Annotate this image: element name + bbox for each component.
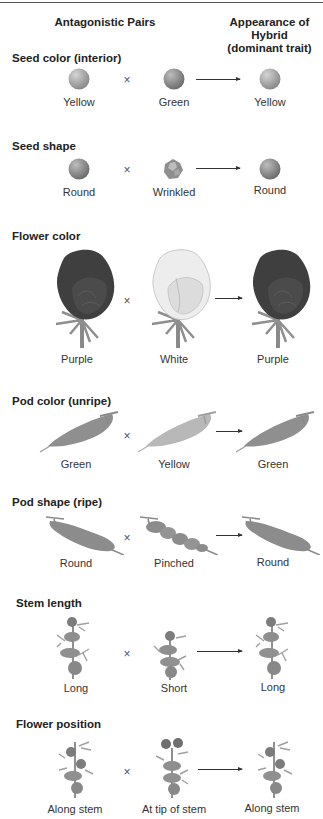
flower-purple-icon	[52, 248, 118, 348]
cross-symbol: ×	[121, 294, 133, 308]
header-hybrid-line2: (dominant trait)	[212, 42, 323, 55]
seed-round-icon	[68, 158, 90, 180]
plant-tip-of-stem-icon	[154, 738, 194, 800]
seed-yellow-icon	[68, 68, 90, 90]
label-hybrid: Round	[228, 556, 318, 568]
label-parent1: Purple	[32, 353, 122, 365]
label-parent2: Wrinkled	[129, 186, 219, 198]
pod-yellow-icon	[136, 410, 218, 454]
pod-round-icon	[44, 515, 124, 555]
cross-symbol: ×	[121, 73, 133, 87]
section-title-stem-length: Stem length	[16, 597, 82, 609]
pod-green-icon	[38, 410, 120, 454]
label-parent2: Short	[129, 682, 219, 694]
section-title-flower-position: Flower position	[16, 718, 101, 730]
label-parent2: Yellow	[129, 458, 219, 470]
arrow-icon	[216, 535, 242, 536]
label-parent2: At tip of stem	[129, 803, 219, 815]
label-parent1: Round	[34, 186, 124, 198]
pod-round-hybrid-icon	[240, 515, 320, 555]
label-parent1: Along stem	[30, 803, 120, 815]
seed-green-icon	[163, 68, 185, 90]
label-parent1: Long	[31, 682, 121, 694]
arrow-icon	[196, 168, 240, 169]
section-title-pod-color: Pod color (unripe)	[12, 395, 111, 407]
plant-long-hybrid-icon	[254, 615, 294, 681]
label-parent2: White	[129, 353, 219, 365]
section-title-seed-shape: Seed shape	[12, 140, 76, 152]
top-rule	[0, 2, 323, 3]
header-hybrid: Appearance of Hybrid (dominant trait)	[212, 16, 323, 55]
seed-yellow-hybrid-icon	[259, 68, 281, 90]
section-title-pod-shape: Pod shape (ripe)	[12, 496, 102, 508]
arrow-icon	[196, 79, 240, 80]
label-parent2: Pinched	[129, 557, 219, 569]
header-antagonistic-pairs: Antagonistic Pairs	[40, 16, 170, 29]
flower-white-icon	[148, 248, 214, 348]
label-hybrid: Round	[225, 184, 315, 196]
label-parent1: Round	[31, 557, 121, 569]
cross-symbol: ×	[121, 765, 133, 779]
label-parent1: Yellow	[34, 96, 124, 108]
section-title-seed-color: Seed color (interior)	[12, 52, 121, 64]
cross-symbol: ×	[121, 647, 133, 661]
arrow-icon	[198, 769, 242, 770]
plant-along-stem-hybrid-icon	[256, 740, 296, 800]
cross-symbol: ×	[121, 163, 133, 177]
label-parent1: Green	[31, 458, 121, 470]
cross-symbol: ×	[121, 429, 133, 443]
plant-along-stem-icon	[57, 740, 97, 800]
arrow-icon	[215, 298, 242, 299]
pod-pinched-icon	[138, 515, 218, 555]
plant-long-icon	[55, 615, 95, 681]
label-hybrid: Long	[228, 681, 318, 693]
seed-round-hybrid-icon	[259, 158, 281, 180]
header-hybrid-line1: Appearance of Hybrid	[212, 16, 323, 42]
arrow-icon	[197, 651, 242, 652]
pod-green-hybrid-icon	[234, 410, 316, 454]
seed-wrinkled-icon	[162, 158, 184, 180]
cross-symbol: ×	[121, 531, 133, 545]
flower-purple-hybrid-icon	[248, 248, 314, 348]
plant-short-icon	[152, 630, 192, 682]
label-hybrid: Along stem	[227, 802, 317, 814]
label-hybrid: Green	[228, 458, 318, 470]
label-hybrid: Yellow	[225, 96, 315, 108]
section-title-flower-color: Flower color	[12, 230, 80, 242]
label-hybrid: Purple	[228, 353, 318, 365]
label-parent2: Green	[129, 96, 219, 108]
